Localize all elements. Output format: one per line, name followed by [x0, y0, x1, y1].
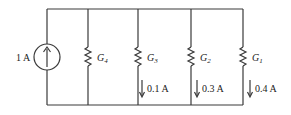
resistor-icon — [240, 47, 246, 66]
circuit-diagram: 1 A G4 G3 0.1 A G2 0.3 A G1 — [0, 0, 291, 115]
arrow-down-icon — [248, 80, 253, 97]
g2-current-label: 0.3 A — [202, 83, 224, 94]
resistor-icon — [135, 47, 141, 66]
arrow-down-icon — [140, 80, 145, 97]
resistor-icon — [85, 47, 91, 66]
g1-label: G1 — [252, 52, 263, 65]
source-label: 1 A — [16, 52, 31, 63]
branch-g4: G4 — [85, 9, 108, 105]
g1-current-label: 0.4 A — [255, 83, 277, 94]
branch-g2: G2 0.3 A — [188, 9, 224, 105]
arrow-up-icon — [44, 47, 51, 67]
resistor-icon — [188, 47, 194, 66]
g4-label: G4 — [97, 52, 108, 65]
g3-label: G3 — [147, 52, 158, 65]
g2-label: G2 — [200, 52, 211, 65]
branch-g3: G3 0.1 A — [135, 9, 169, 105]
arrow-down-icon — [195, 80, 200, 97]
current-source: 1 A — [16, 9, 60, 105]
g3-current-label: 0.1 A — [147, 83, 169, 94]
branch-g1: G1 0.4 A — [240, 9, 277, 105]
